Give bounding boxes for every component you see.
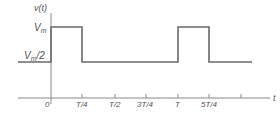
waveform-diagram: v(t) t Vm Vm/2 0 T/4 T/2 3T/4 T 5T/4 [0,0,280,114]
y-axis-label: v(t) [34,3,47,13]
x-tick-labels: 0 T/4 T/2 3T/4 T 5T/4 [45,100,218,109]
tick-label-3t4: 3T/4 [137,100,154,109]
level-label-vm: Vm [34,22,47,34]
tick-label-t4: T/4 [76,100,88,109]
pulse-waveform [18,27,252,62]
x-axis-ticks [82,94,241,98]
tick-label-t2: T/2 [109,100,121,109]
tick-label-0: 0 [45,100,50,109]
tick-label-5t4: 5T/4 [201,100,218,109]
x-axis-label: t [273,93,276,103]
tick-label-t: T [175,100,181,109]
level-label-vm-half: Vm/2 [24,50,45,62]
